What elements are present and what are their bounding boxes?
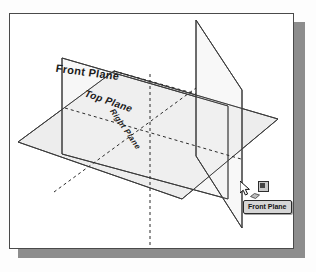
figure-root: Front Plane Top Plane Right Plane Front … xyxy=(0,0,316,272)
plane-tooltip: Front Plane xyxy=(243,200,292,214)
